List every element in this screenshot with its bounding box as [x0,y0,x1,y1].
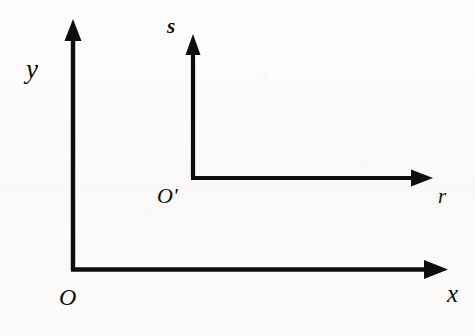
s-axis-arrowhead-icon [186,34,201,55]
local-frame-axes [186,34,434,187]
x-axis-arrowhead-icon [424,260,448,279]
r-axis-arrowhead-icon [411,170,433,187]
origin-prime-label: O' [157,185,178,207]
origin-label: O [59,285,76,309]
s-axis-label: s [167,16,175,37]
r-axis-label: r [438,186,446,207]
global-frame-axes [65,19,449,279]
y-axis-arrowhead-icon [65,19,82,41]
coordinate-frames-figure: y O x s O' r [0,0,475,336]
y-axis-label: y [26,56,38,83]
x-axis-label: x [447,281,458,306]
